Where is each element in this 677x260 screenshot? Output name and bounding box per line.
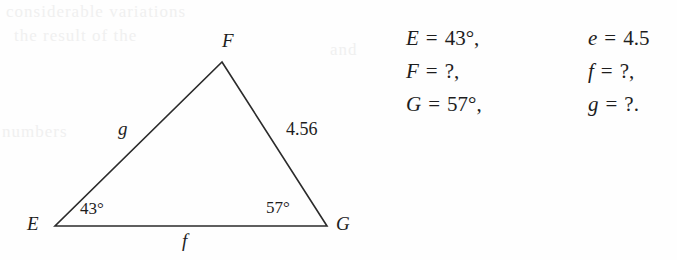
equation-value: 4.5 <box>623 26 649 51</box>
side-length-e-value: 4.56 <box>286 119 318 140</box>
side-label-f: f <box>182 230 187 252</box>
equation-value: ?, <box>620 59 635 84</box>
equation-variable: g <box>588 92 599 117</box>
equals-sign: = <box>419 26 445 51</box>
equation-angle-g: G = 57°, <box>406 92 588 117</box>
figure-page: considerable variations the result of th… <box>0 0 677 260</box>
equation-value: ?, <box>445 59 460 84</box>
equals-sign: = <box>597 26 623 51</box>
equation-angle-f: F = ?, <box>406 59 588 84</box>
equals-sign: = <box>419 59 445 84</box>
equation-row: F = ?, f = ?, <box>406 59 677 92</box>
triangle-diagram: F E G g f 4.56 43° 57° <box>0 0 380 260</box>
given-values-block: E = 43°, e = 4.5 F = ?, f = ?, <box>406 26 677 125</box>
equation-variable: F <box>406 59 419 84</box>
equals-sign: = <box>421 92 447 117</box>
equation-value: ?. <box>624 92 639 117</box>
equation-variable: e <box>588 26 597 51</box>
equation-value: 43°, <box>445 26 480 51</box>
equation-side-g: g = ?. <box>588 92 677 117</box>
equation-variable: E <box>406 26 419 51</box>
angle-label-g: 57° <box>266 198 290 218</box>
vertex-label-g: G <box>336 213 350 235</box>
equation-variable: G <box>406 92 421 117</box>
equation-row: G = 57°, g = ?. <box>406 92 677 125</box>
equation-side-e: e = 4.5 <box>588 26 677 51</box>
vertex-label-e: E <box>27 213 39 235</box>
side-label-g: g <box>118 118 128 140</box>
triangle-svg <box>0 0 380 260</box>
vertex-label-f: F <box>222 30 234 52</box>
equals-sign: = <box>599 92 625 117</box>
equation-side-f: f = ?, <box>588 59 677 84</box>
equation-angle-e: E = 43°, <box>406 26 588 51</box>
angle-label-e: 43° <box>80 199 104 219</box>
equation-value: 57°, <box>447 92 482 117</box>
equals-sign: = <box>594 59 620 84</box>
equation-row: E = 43°, e = 4.5 <box>406 26 677 59</box>
